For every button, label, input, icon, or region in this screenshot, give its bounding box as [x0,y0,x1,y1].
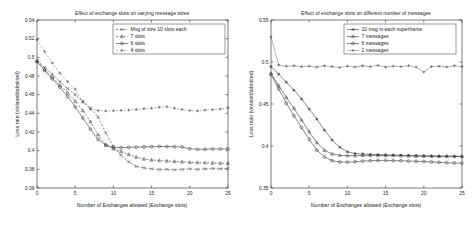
legend[interactable]: Msg of size 10 slots each7 slots6 slots4… [113,24,225,54]
x-tick-label: 5 [308,191,311,196]
y-tick-label: 0.4 [28,148,35,153]
x-tick-label: 25 [459,191,465,196]
x-tick-label: 0 [36,191,39,196]
x-tick-label: 15 [383,191,389,196]
series-3 [270,73,464,165]
legend-entry-label: 10 msg in each superframe [362,26,423,32]
x-tick-label: 25 [225,191,231,196]
y-tick-label: 0.46 [25,92,35,97]
y-axis-label: Loss rate (violated/admitted) [14,71,20,137]
x-tick-label: 20 [421,191,427,196]
plot-area [269,35,463,164]
y-tick-label: 0.55 [259,18,269,23]
legend-entry-label: Msg of size 10 slots each [131,26,187,32]
series-1 [270,65,464,158]
y-tick-label: 0.5 [28,55,35,60]
x-tick-label: 0 [270,191,273,196]
series-2 [269,72,463,158]
y-tick-label: 0.52 [25,36,35,41]
figure-container: Effect of exchange slots on varying mess… [0,0,472,229]
left-chart-svg: Effect of exchange slots on varying mess… [0,0,236,229]
chart-title: Effect of exchange slots on varying mess… [75,10,189,16]
chart-title: Effect of exchange slots on different nu… [301,10,431,16]
x-tick-label: 15 [149,191,155,196]
x-tick-label: 20 [187,191,193,196]
legend-entry-label: 7 slots [131,33,146,39]
chart-panel-right: Effect of exchange slots on different nu… [236,0,472,229]
right-chart-svg: Effect of exchange slots on different nu… [236,0,472,229]
y-tick-label: 0.44 [25,111,35,116]
legend[interactable]: 10 msg in each superframe7 messages6 mes… [344,24,456,54]
plot-area [35,38,229,171]
series-1 [36,59,230,171]
legend-entry-label: 6 slots [131,40,146,46]
legend-entry-label: 6 messages [362,40,389,46]
y-tick-label: 0.35 [259,186,269,191]
y-tick-label: 0.54 [25,18,35,23]
legend-entry-label: 2 messages [362,47,389,53]
y-tick-label: 0.5 [262,60,269,65]
x-axis-label: Number of Exchanges allowed (Exchange sl… [311,202,422,208]
legend-entry-label: 7 messages [362,33,389,39]
y-tick-label: 0.45 [259,102,269,107]
y-tick-label: 0.48 [25,74,35,79]
y-tick-label: 0.4 [262,144,269,149]
series-3 [36,60,230,151]
chart-panel-left: Effect of exchange slots on varying mess… [0,0,236,229]
x-tick-label: 5 [74,191,77,196]
x-tick-label: 10 [345,191,351,196]
y-axis-label: Loss ratio (violated/admitted) [248,70,254,137]
y-tick-label: 0.42 [25,130,35,135]
y-tick-label: 0.38 [25,167,35,172]
x-tick-label: 10 [111,191,117,196]
x-axis-label: Number of Exchanges allowed (Exchange sl… [77,202,188,208]
legend-entry-label: 4 slots [131,47,146,53]
series-2 [35,59,229,164]
y-tick-label: 0.36 [25,186,35,191]
